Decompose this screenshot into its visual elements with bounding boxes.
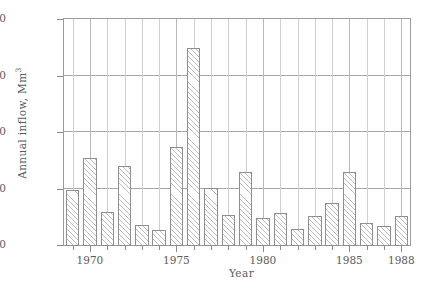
x-axis-title: Year	[63, 267, 420, 279]
bar	[135, 225, 148, 246]
x-axis-tick-mark	[298, 246, 299, 250]
bar	[187, 48, 200, 246]
x-axis-tick-label: 1980	[243, 254, 283, 266]
y-axis-tick-mark	[57, 132, 63, 133]
y-axis-title: Annual inflow, Mm3	[14, 3, 30, 243]
bar	[118, 166, 131, 247]
x-axis-tick-mark	[90, 246, 91, 252]
bar	[170, 147, 183, 246]
x-axis-tick-mark	[159, 246, 160, 250]
x-axis-tick-mark	[107, 246, 108, 250]
x-axis-tick-mark	[246, 246, 247, 250]
x-axis-tick-mark	[349, 246, 350, 252]
bar	[83, 158, 96, 246]
y-axis-tick-label: 200	[0, 182, 6, 194]
bar-chart-figure: Annual inflow, Mm3 Year 0200400600800197…	[0, 0, 422, 293]
bar	[343, 172, 356, 246]
x-axis-tick-mark	[263, 246, 264, 252]
x-axis-tick-mark	[73, 246, 74, 250]
bar	[256, 218, 269, 246]
y-axis-tick-label: 800	[0, 12, 6, 24]
bar	[291, 229, 304, 246]
bar	[377, 226, 390, 246]
x-axis-tick-mark	[211, 246, 212, 250]
y-axis-tick-mark	[57, 76, 63, 77]
bar	[274, 213, 287, 246]
x-axis-tick-label: 1988	[381, 254, 421, 266]
x-axis-tick-mark	[142, 246, 143, 250]
x-axis-tick-mark	[125, 246, 126, 250]
bar	[66, 190, 79, 246]
bar	[395, 216, 408, 246]
y-axis-title-text: Annual inflow, Mm	[16, 72, 28, 178]
bar	[222, 215, 235, 246]
x-axis-tick-mark	[401, 246, 402, 252]
y-axis-tick-mark	[57, 189, 63, 190]
x-axis-tick-mark	[332, 246, 333, 250]
x-axis-tick-mark	[228, 246, 229, 250]
y-axis-tick-label: 400	[0, 125, 6, 137]
bar	[101, 212, 114, 246]
x-axis-tick-label: 1985	[329, 254, 369, 266]
bar	[325, 203, 338, 246]
x-axis-tick-label: 1975	[156, 254, 196, 266]
y-axis-tick-mark	[57, 19, 63, 20]
x-axis-tick-label: 1970	[70, 254, 110, 266]
x-axis-tick-mark	[280, 246, 281, 250]
y-axis-tick-label: 0	[0, 238, 6, 250]
bar	[152, 230, 165, 246]
y-axis-title-exponent: 3	[14, 67, 23, 72]
bar	[204, 188, 217, 246]
y-axis-tick-mark	[57, 245, 63, 246]
bar-series	[64, 19, 410, 246]
y-axis-tick-label: 600	[0, 69, 6, 81]
x-axis-tick-mark	[367, 246, 368, 250]
x-axis-tick-mark	[194, 246, 195, 250]
bar	[360, 223, 373, 246]
bar	[239, 172, 252, 246]
x-axis-tick-mark	[176, 246, 177, 252]
x-axis-tick-mark	[384, 246, 385, 250]
x-axis-tick-mark	[315, 246, 316, 250]
bar	[308, 216, 321, 247]
